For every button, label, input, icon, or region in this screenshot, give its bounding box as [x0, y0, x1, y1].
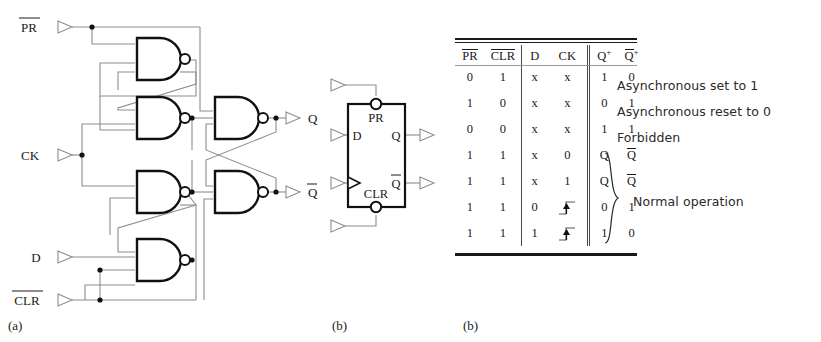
cell-ck: x — [547, 64, 589, 90]
col-header-pr: PR — [455, 45, 485, 64]
cell-q: 1 — [589, 116, 618, 142]
symbol-label-q: Q — [391, 129, 400, 143]
symbol-label-qbar: Q — [391, 177, 400, 191]
cell-ck — [547, 220, 589, 246]
nand-gate-6 — [215, 171, 268, 213]
cell-d: 0 — [522, 194, 548, 220]
col-header-q: Q+ — [589, 45, 618, 64]
symbol-label-clr: CLR — [364, 187, 389, 201]
symbol-pin-ck[interactable] — [331, 177, 345, 189]
nand-gate-3 — [137, 171, 190, 213]
cell-ck — [547, 194, 589, 220]
annotation-normal-operation: Normal operation — [633, 194, 744, 209]
preset-bubble — [371, 99, 381, 109]
cell-pr: 1 — [455, 220, 485, 246]
symbol-pin-q[interactable] — [420, 129, 434, 141]
symbol-pin-pr[interactable] — [331, 79, 345, 91]
caption-c: (b) — [463, 318, 478, 334]
cell-d: 1 — [522, 220, 548, 246]
symbol-pin-d[interactable] — [331, 129, 345, 141]
brace-normal-operation — [604, 152, 620, 244]
cell-q: 1 — [589, 64, 618, 90]
input-pin-pr[interactable] — [58, 21, 72, 33]
output-pin-q[interactable] — [286, 112, 300, 124]
cell-ck: 0 — [547, 142, 589, 168]
cell-qbar: Q — [618, 168, 645, 194]
caption-a: (a) — [8, 318, 22, 334]
nand-gate-2 — [137, 97, 190, 139]
block-symbol-dff: PR CLR D Q Q — [331, 79, 434, 232]
cell-clr: 1 — [485, 142, 522, 168]
cell-d: x — [522, 64, 548, 90]
col-header-qbar: Q+ — [618, 45, 645, 64]
cell-pr: 1 — [455, 142, 485, 168]
rising-edge-icon — [557, 199, 577, 216]
schematic-nand-dff: PR CK D CLR Q Q — [0, 0, 821, 342]
cell-pr: 0 — [455, 116, 485, 142]
annotation-forbidden: Forbidden — [617, 130, 680, 145]
label-d: D — [31, 250, 40, 265]
annotation-async-reset: Asynchronous reset to 0 — [617, 104, 771, 119]
input-pin-clr[interactable] — [58, 294, 72, 306]
cell-pr: 1 — [455, 90, 485, 116]
symbol-pin-qbar[interactable] — [420, 177, 434, 189]
cell-clr: 0 — [485, 90, 522, 116]
cell-clr: 0 — [485, 116, 522, 142]
cell-pr: 1 — [455, 168, 485, 194]
clear-bubble — [371, 202, 381, 212]
cell-pr: 1 — [455, 194, 485, 220]
figure-d-flip-flop: PR CK D CLR Q Q — [0, 0, 821, 342]
input-pin-d[interactable] — [58, 251, 72, 263]
label-ck: CK — [21, 148, 40, 163]
col-header-clr: CLR — [485, 45, 522, 64]
cell-qbar: 0 — [618, 220, 645, 246]
annotation-async-set: Asynchronous set to 1 — [617, 78, 758, 93]
col-header-d: D — [522, 45, 548, 64]
cell-clr: 1 — [485, 220, 522, 246]
cell-ck: 1 — [547, 168, 589, 194]
cell-ck: x — [547, 116, 589, 142]
col-header-ck: CK — [547, 45, 589, 64]
nand-gate-4 — [137, 239, 190, 281]
label-q-out: Q — [308, 111, 318, 126]
caption-b: (b) — [332, 318, 347, 334]
cell-d: x — [522, 168, 548, 194]
table-rule-top-inner — [455, 42, 637, 43]
label-pr: PR — [21, 20, 37, 35]
nand-gate-5 — [215, 97, 268, 139]
output-pin-qbar[interactable] — [286, 186, 300, 198]
cell-d: x — [522, 90, 548, 116]
symbol-label-pr: PR — [368, 111, 384, 125]
cell-pr: 0 — [455, 64, 485, 90]
cell-q: 0 — [589, 90, 618, 116]
cell-ck: x — [547, 90, 589, 116]
table-rule-bottom — [455, 253, 637, 256]
cell-clr: 1 — [485, 64, 522, 90]
table-header-row: PR CLR D CK Q+ Q+ — [455, 45, 645, 64]
symbol-label-d: D — [352, 129, 361, 143]
cell-clr: 1 — [485, 168, 522, 194]
cell-clr: 1 — [485, 194, 522, 220]
label-qbar-out: Q — [308, 185, 318, 200]
cell-qbar: Q — [618, 142, 645, 168]
nand-gate-1 — [137, 38, 190, 80]
symbol-pin-clr[interactable] — [331, 220, 345, 232]
rising-edge-icon — [557, 225, 577, 242]
table-rule-header — [455, 65, 637, 66]
cell-d: x — [522, 116, 548, 142]
label-clr: CLR — [14, 293, 40, 308]
table-rule-top-outer — [455, 38, 637, 40]
input-pin-ck[interactable] — [58, 149, 72, 161]
cell-d: x — [522, 142, 548, 168]
